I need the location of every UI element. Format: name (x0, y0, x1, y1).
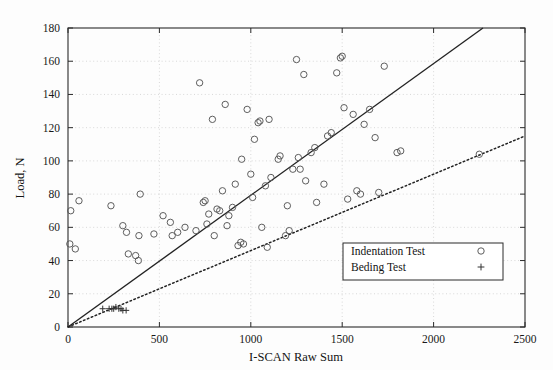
data-points-indentation (67, 53, 483, 264)
data-point-indentation (313, 199, 319, 205)
data-point-indentation (251, 136, 257, 142)
data-point-indentation (397, 148, 403, 154)
data-point-indentation (344, 196, 350, 202)
data-point-indentation (224, 222, 230, 228)
x-tick-label: 500 (151, 333, 169, 345)
chart-figure: 05001000150020002500 0204060801001201401… (0, 0, 553, 370)
data-point-indentation (244, 106, 250, 112)
y-tick-label: 80 (49, 188, 61, 200)
data-point-indentation (76, 198, 82, 204)
x-axis-title: I-SCAN Raw Sum (249, 350, 343, 364)
legend-label: Beding Test (351, 261, 407, 274)
legend-label: Indentation Test (351, 245, 426, 257)
data-point-indentation (394, 149, 400, 155)
data-point-indentation (255, 119, 261, 125)
tick-labels-x: 05001000150020002500 (65, 333, 537, 345)
data-point-indentation (376, 189, 382, 195)
data-point-indentation (293, 56, 299, 62)
data-point-indentation (284, 203, 290, 209)
data-point-indentation (321, 181, 327, 187)
fit-line-indentation (68, 28, 483, 327)
plot-frame (68, 28, 525, 327)
legend-box: Indentation TestBeding Test (343, 243, 503, 280)
grid-lines (68, 28, 525, 327)
x-tick-label: 2000 (422, 333, 445, 345)
data-point-indentation (341, 105, 347, 111)
data-point-indentation (290, 166, 296, 172)
data-point-indentation (301, 71, 307, 77)
data-point-indentation (232, 181, 238, 187)
data-point-indentation (297, 166, 303, 172)
data-point-indentation (238, 156, 244, 162)
y-tick-label: 20 (49, 288, 61, 300)
y-tick-label: 180 (43, 22, 61, 34)
y-tick-label: 120 (43, 122, 61, 134)
data-point-indentation (211, 232, 217, 238)
x-tick-label: 1500 (331, 333, 354, 345)
data-point-indentation (193, 227, 199, 233)
y-tick-label: 0 (54, 321, 60, 333)
data-point-indentation (476, 151, 482, 157)
y-tick-label: 40 (49, 255, 61, 267)
data-point-indentation (381, 63, 387, 69)
y-axis-title: Load, N (13, 158, 27, 199)
data-point-indentation (206, 211, 212, 217)
data-point-indentation (350, 111, 356, 117)
data-point-indentation (174, 229, 180, 235)
data-point-indentation (209, 116, 215, 122)
data-point-indentation (361, 121, 367, 127)
x-tick-label: 0 (65, 333, 71, 345)
data-point-indentation (167, 219, 173, 225)
data-point-indentation (72, 246, 78, 252)
data-point-indentation (196, 80, 202, 86)
data-point-indentation (268, 174, 274, 180)
data-point-indentation (249, 194, 255, 200)
data-point-indentation (266, 116, 272, 122)
data-point-indentation (302, 178, 308, 184)
data-point-indentation (219, 188, 225, 194)
scatter-plot: 05001000150020002500 0204060801001201401… (0, 0, 553, 370)
data-point-bending (123, 307, 129, 313)
data-point-indentation (136, 232, 142, 238)
data-point-indentation (125, 251, 131, 257)
data-point-indentation (372, 134, 378, 140)
x-tick-label: 1000 (239, 333, 262, 345)
data-point-indentation (120, 222, 126, 228)
data-point-indentation (202, 198, 208, 204)
tick-labels-y: 020406080100120140160180 (43, 22, 61, 333)
data-point-indentation (264, 244, 270, 250)
data-point-indentation (257, 118, 263, 124)
data-point-indentation (200, 199, 206, 205)
data-point-indentation (334, 70, 340, 76)
data-point-indentation (295, 154, 301, 160)
data-point-indentation (226, 213, 232, 219)
y-tick-label: 100 (43, 155, 61, 167)
y-tick-label: 160 (43, 55, 61, 67)
x-tick-label: 2500 (514, 333, 537, 345)
fit-line-bending (68, 136, 525, 327)
data-point-indentation (286, 227, 292, 233)
data-point-indentation (222, 101, 228, 107)
data-point-bending (100, 306, 106, 312)
data-point-indentation (160, 213, 166, 219)
data-point-indentation (337, 55, 343, 61)
data-point-indentation (108, 203, 114, 209)
y-tick-label: 60 (49, 221, 61, 233)
axis-ticks (68, 28, 525, 327)
data-point-indentation (151, 231, 157, 237)
y-tick-label: 140 (43, 88, 61, 100)
data-point-indentation (123, 229, 129, 235)
